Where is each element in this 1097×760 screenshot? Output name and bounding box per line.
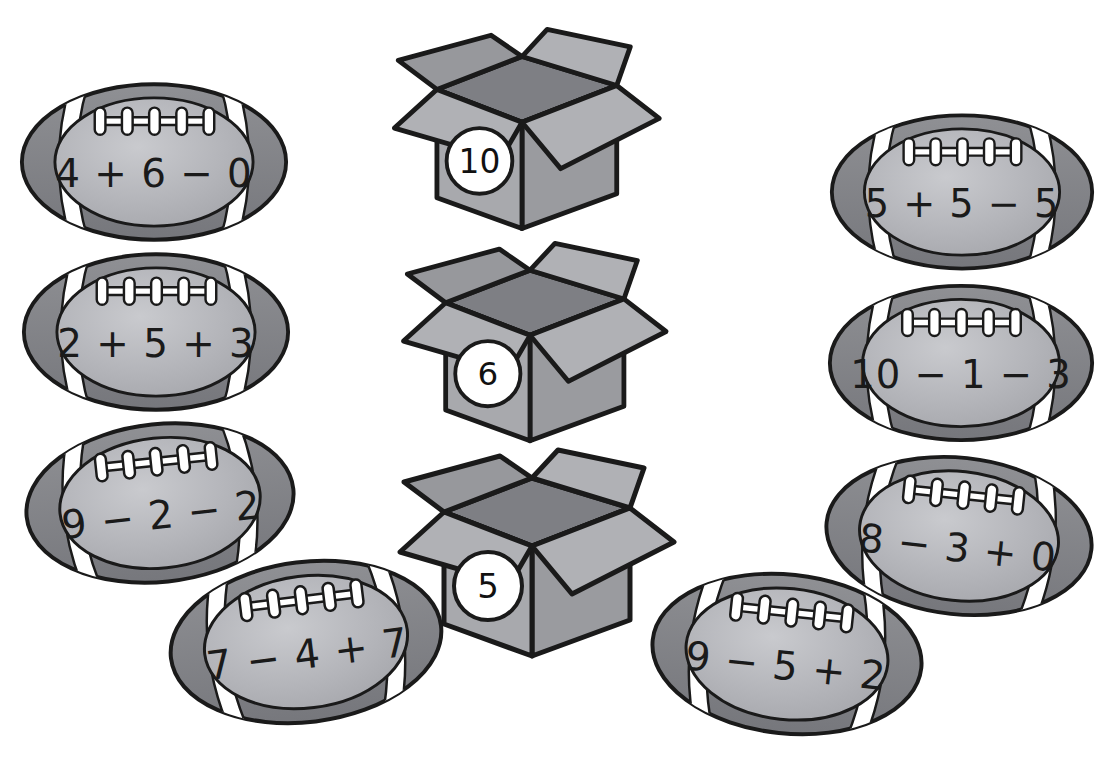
football-body: 4 + 6 − 0 — [22, 78, 286, 245]
football-5[interactable]: 5 + 5 − 5 — [828, 108, 1096, 276]
lace-stitch — [122, 108, 133, 135]
football-expression: 2 + 5 + 3 — [57, 321, 254, 366]
lace-stitch — [294, 586, 308, 615]
lace-stitch — [149, 108, 160, 135]
box-number-label: 6 — [477, 355, 498, 393]
lace-stitch — [902, 309, 913, 336]
lace-stitch — [350, 579, 364, 608]
football-body: 7 − 4 + 7 — [161, 540, 452, 744]
lace-stitch — [95, 108, 106, 135]
lace-stitch — [813, 601, 827, 630]
lace-stitch — [957, 481, 971, 509]
football-expression: 4 + 6 − 0 — [55, 151, 252, 196]
box-number-label: 5 — [477, 566, 499, 606]
lace-stitch — [204, 442, 218, 471]
lace-stitch — [124, 278, 135, 305]
football-6[interactable]: 10 − 1 − 3 — [826, 278, 1096, 448]
football-expression: 5 + 5 − 5 — [865, 181, 1059, 226]
lace-stitch — [97, 278, 108, 305]
lace-stitch — [266, 589, 280, 618]
lace-stitch — [957, 138, 968, 165]
lace-stitch — [176, 108, 187, 135]
lace-stitch — [206, 278, 217, 305]
lace-stitch — [930, 478, 944, 506]
lace-stitch — [902, 475, 916, 503]
lace-stitch — [239, 593, 253, 622]
football-body: 10 − 1 − 3 — [830, 280, 1092, 446]
football-body: 9 − 5 + 2 — [644, 555, 930, 753]
lace-stitch — [956, 309, 967, 336]
lace-stitch — [204, 108, 215, 135]
lace-stitch — [983, 309, 994, 336]
football-4[interactable]: 7 − 4 + 7 — [157, 540, 456, 745]
lace-stitch — [94, 453, 108, 482]
lace-stitch — [929, 309, 940, 336]
football-8[interactable]: 9 − 5 + 2 — [640, 554, 934, 754]
worksheet-canvas: 10654 + 6 − 02 + 5 + 39 − 2 − 27 − 4 + 7… — [0, 0, 1097, 760]
lace-stitch — [840, 604, 854, 633]
football-body: 2 + 5 + 3 — [24, 248, 288, 415]
box-10[interactable]: 10 — [372, 14, 672, 246]
lace-stitch — [904, 138, 915, 165]
lace-stitch — [984, 484, 998, 512]
lace-stitch — [1010, 309, 1021, 336]
lace-stitch — [151, 278, 162, 305]
lace-stitch — [1011, 487, 1025, 515]
box-body: 10 — [394, 29, 659, 228]
box-body: 6 — [404, 243, 667, 440]
lace-stitch — [122, 450, 136, 479]
lace-stitch — [984, 138, 995, 165]
lace-stitch — [149, 447, 163, 476]
football-expression: 10 − 1 − 3 — [850, 352, 1071, 397]
lace-stitch — [177, 445, 191, 474]
box-number-label: 10 — [459, 142, 501, 181]
lace-stitch — [1011, 138, 1022, 165]
lace-stitch — [757, 595, 771, 624]
box-6[interactable]: 6 — [382, 228, 678, 458]
lace-stitch — [930, 138, 941, 165]
football-2[interactable]: 2 + 5 + 3 — [20, 248, 292, 416]
lace-stitch — [322, 582, 336, 611]
lace-stitch — [730, 592, 744, 621]
football-body: 5 + 5 − 5 — [832, 110, 1092, 275]
lace-stitch — [178, 278, 189, 305]
football-1[interactable]: 4 + 6 − 0 — [18, 78, 290, 246]
lace-stitch — [785, 598, 799, 627]
